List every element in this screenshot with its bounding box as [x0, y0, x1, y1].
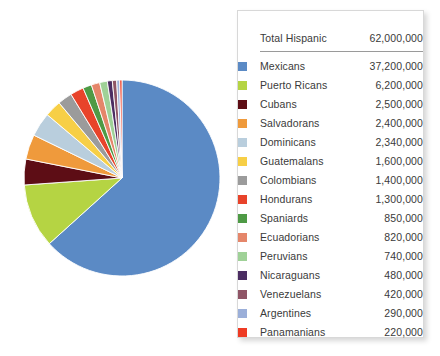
pie-chart — [22, 78, 222, 278]
legend-label: Nicaraguans — [260, 266, 352, 285]
legend-value: 740,000 — [352, 247, 423, 266]
legend-row[interactable]: Ecuadorians820,000 — [238, 228, 423, 247]
legend-color-swatch — [238, 62, 247, 71]
legend-row[interactable]: Argentines290,000 — [238, 304, 423, 323]
legend-value: 6,200,000 — [352, 76, 423, 95]
legend-total-swatch-placeholder — [238, 11, 260, 52]
legend-color-swatch — [238, 271, 247, 280]
legend-swatch-cell — [238, 285, 260, 304]
legend-swatch-cell — [238, 57, 260, 76]
legend-swatch-cell — [238, 228, 260, 247]
legend-total-value: 62,000,000 — [352, 11, 423, 52]
legend-value: 480,000 — [352, 266, 423, 285]
legend-row[interactable]: Salvadorans2,400,000 — [238, 114, 423, 133]
pie-chart-area — [0, 0, 236, 356]
legend-color-swatch — [238, 138, 247, 147]
legend-color-swatch — [238, 157, 247, 166]
legend-swatch-cell — [238, 247, 260, 266]
legend-swatch-cell — [238, 95, 260, 114]
legend-label: Mexicans — [260, 57, 352, 76]
legend-row[interactable]: Peruvians740,000 — [238, 247, 423, 266]
legend-label: Peruvians — [260, 247, 352, 266]
legend-label: Salvadorans — [260, 114, 352, 133]
legend-color-swatch — [238, 195, 247, 204]
legend-value: 290,000 — [352, 304, 423, 323]
legend-label: Ecuadorians — [260, 228, 352, 247]
legend-swatch-cell — [238, 171, 260, 190]
legend-row[interactable]: Panamanians220,000 — [238, 323, 423, 342]
legend-swatch-cell — [238, 304, 260, 323]
legend-label: Spaniards — [260, 209, 352, 228]
legend-total-row: Total Hispanic 62,000,000 — [238, 11, 423, 52]
legend-swatch-cell — [238, 209, 260, 228]
legend-swatch-cell — [238, 76, 260, 95]
legend-row[interactable]: Nicaraguans480,000 — [238, 266, 423, 285]
legend-label: Venezuelans — [260, 285, 352, 304]
legend-color-swatch — [238, 290, 247, 299]
legend-color-swatch — [238, 214, 247, 223]
legend-color-swatch — [238, 328, 247, 337]
legend-swatch-cell — [238, 152, 260, 171]
legend-label: Cubans — [260, 95, 352, 114]
legend-color-swatch — [238, 233, 247, 242]
legend-swatch-cell — [238, 323, 260, 342]
legend-swatch-cell — [238, 114, 260, 133]
legend-row[interactable]: Guatemalans1,600,000 — [238, 152, 423, 171]
legend-label: Hondurans — [260, 190, 352, 209]
legend-row[interactable]: Dominicans2,340,000 — [238, 133, 423, 152]
legend-label: Argentines — [260, 304, 352, 323]
legend-row[interactable]: Hondurans1,300,000 — [238, 190, 423, 209]
legend-row[interactable]: Puerto Ricans6,200,000 — [238, 76, 423, 95]
legend-row[interactable]: Venezuelans420,000 — [238, 285, 423, 304]
legend-row[interactable]: Colombians1,400,000 — [238, 171, 423, 190]
legend-table: Total Hispanic 62,000,000 Mexicans37,200… — [238, 11, 423, 342]
legend-value: 2,500,000 — [352, 95, 423, 114]
legend-value: 850,000 — [352, 209, 423, 228]
legend-value: 420,000 — [352, 285, 423, 304]
legend-label: Panamanians — [260, 323, 352, 342]
legend-value: 2,400,000 — [352, 114, 423, 133]
pie-slice-group — [24, 80, 220, 276]
legend-row[interactable]: Cubans2,500,000 — [238, 95, 423, 114]
legend-row[interactable]: Mexicans37,200,000 — [238, 57, 423, 76]
legend-total-label: Total Hispanic — [260, 11, 352, 52]
legend-color-swatch — [238, 176, 247, 185]
legend-color-swatch — [238, 119, 247, 128]
legend-swatch-cell — [238, 266, 260, 285]
legend-label: Guatemalans — [260, 152, 352, 171]
legend-label: Dominicans — [260, 133, 352, 152]
legend-row[interactable]: Spaniards850,000 — [238, 209, 423, 228]
legend-value: 1,600,000 — [352, 152, 423, 171]
legend-color-swatch — [238, 309, 247, 318]
legend-swatch-cell — [238, 133, 260, 152]
legend-label: Colombians — [260, 171, 352, 190]
legend-swatch-cell — [238, 190, 260, 209]
legend-color-swatch — [238, 100, 247, 109]
legend-value: 1,300,000 — [352, 190, 423, 209]
legend-color-swatch — [238, 81, 247, 90]
legend-label: Puerto Ricans — [260, 76, 352, 95]
legend-value: 820,000 — [352, 228, 423, 247]
legend-value: 1,400,000 — [352, 171, 423, 190]
legend-value: 2,340,000 — [352, 133, 423, 152]
legend-panel: Total Hispanic 62,000,000 Mexicans37,200… — [237, 10, 424, 338]
legend-value: 37,200,000 — [352, 57, 423, 76]
legend-value: 220,000 — [352, 323, 423, 342]
legend-color-swatch — [238, 252, 247, 261]
